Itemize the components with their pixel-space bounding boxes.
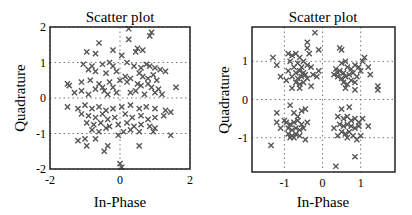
right-scatter-plot: Scatter plot -101-101 In-Phase Quadratur… xyxy=(216,9,395,210)
x-marker-point xyxy=(88,78,93,83)
x-marker-point xyxy=(152,106,157,111)
x-marker-point xyxy=(309,84,314,89)
left-plot-axes-box xyxy=(50,27,190,169)
x-marker-point xyxy=(67,83,72,88)
x-tick-label: -2 xyxy=(45,173,55,187)
x-marker-point xyxy=(79,88,84,93)
x-tick-label: 0 xyxy=(117,173,123,187)
x-marker-point xyxy=(82,103,87,108)
x-tick-label: 2 xyxy=(187,173,193,187)
x-marker-point xyxy=(149,85,154,90)
x-marker-point xyxy=(278,126,283,131)
right-plot-xlabel: In-Phase xyxy=(297,194,350,210)
x-marker-point xyxy=(335,114,340,119)
x-marker-point xyxy=(138,122,143,127)
x-marker-point xyxy=(366,64,371,69)
x-marker-point xyxy=(163,108,168,113)
x-marker-point xyxy=(274,63,279,68)
x-marker-point xyxy=(360,116,365,121)
x-marker-point xyxy=(307,51,312,56)
left-scatter-plot: Scatter plot -202-2-1012 In-Phase Quadra… xyxy=(12,9,193,210)
x-marker-point xyxy=(124,79,129,84)
x-marker-point xyxy=(147,124,152,129)
x-marker-point xyxy=(305,40,310,45)
y-tick-label: 1 xyxy=(242,54,248,68)
x-marker-point xyxy=(81,62,86,67)
x-marker-point xyxy=(366,124,371,129)
x-marker-point xyxy=(130,115,135,120)
x-marker-point xyxy=(159,92,164,97)
x-marker-point xyxy=(79,111,84,116)
x-marker-point xyxy=(84,143,89,148)
x-tick-label: -1 xyxy=(279,176,289,190)
left-plot-grid xyxy=(50,27,190,169)
x-marker-point xyxy=(305,120,310,125)
x-marker-point xyxy=(84,120,89,125)
x-marker-point xyxy=(158,67,163,72)
x-marker-point xyxy=(72,90,77,95)
x-marker-point xyxy=(86,113,91,118)
x-marker-point xyxy=(142,92,147,97)
x-marker-point xyxy=(112,115,117,120)
y-tick-label: 0 xyxy=(242,93,248,107)
x-marker-point xyxy=(116,122,121,127)
x-marker-point xyxy=(286,68,291,73)
x-marker-point xyxy=(140,47,145,52)
x-marker-point xyxy=(297,85,302,90)
x-marker-point xyxy=(368,72,373,77)
x-marker-point xyxy=(93,69,98,74)
left-plot-title: Scatter plot xyxy=(86,9,156,25)
x-marker-point xyxy=(75,138,80,143)
x-marker-point xyxy=(79,79,84,84)
x-marker-point xyxy=(103,71,108,76)
x-marker-point xyxy=(268,143,273,148)
x-marker-point xyxy=(89,127,94,132)
x-marker-point xyxy=(110,63,115,68)
x-marker-point xyxy=(152,65,157,70)
x-marker-point xyxy=(124,60,129,65)
x-marker-point xyxy=(93,115,98,120)
x-tick-label: 0 xyxy=(320,176,326,190)
x-marker-point xyxy=(333,164,338,169)
x-marker-point xyxy=(89,106,94,111)
x-marker-point xyxy=(84,49,89,54)
x-marker-point xyxy=(352,87,357,92)
x-marker-point xyxy=(91,122,96,127)
right-plot-title: Scatter plot xyxy=(289,9,359,25)
x-marker-point xyxy=(168,110,173,115)
scatter-plots-figure: Scatter plot -202-2-1012 In-Phase Quadra… xyxy=(0,0,412,215)
x-marker-point xyxy=(173,85,178,90)
x-marker-point xyxy=(124,120,129,125)
x-marker-point xyxy=(284,78,289,83)
x-marker-point xyxy=(137,129,142,134)
x-marker-point xyxy=(291,64,296,69)
x-marker-point xyxy=(110,85,115,90)
x-marker-point xyxy=(352,154,357,159)
x-marker-point xyxy=(154,78,159,83)
x-marker-point xyxy=(137,106,142,111)
x-marker-point xyxy=(107,79,112,84)
x-marker-point xyxy=(93,87,98,92)
x-marker-point xyxy=(110,47,115,52)
x-marker-point xyxy=(303,137,308,142)
x-marker-point xyxy=(86,92,91,97)
x-marker-point xyxy=(86,67,91,72)
x-marker-point xyxy=(138,113,143,118)
x-marker-point xyxy=(316,47,321,52)
x-marker-point xyxy=(126,37,131,42)
x-marker-point xyxy=(291,110,296,115)
x-marker-point xyxy=(331,126,336,131)
x-marker-point xyxy=(138,65,143,70)
x-marker-point xyxy=(82,136,87,141)
x-marker-point xyxy=(102,149,107,154)
x-marker-point xyxy=(75,106,80,111)
x-marker-point xyxy=(289,74,294,79)
y-tick-label: 2 xyxy=(40,20,46,34)
x-marker-point xyxy=(96,129,101,134)
x-marker-point xyxy=(100,62,105,67)
x-marker-point xyxy=(140,74,145,79)
x-marker-point xyxy=(93,136,98,141)
left-plot-ylabel: Quadrature xyxy=(12,64,28,132)
y-tick-label: -1 xyxy=(36,127,46,141)
x-marker-point xyxy=(289,85,294,90)
